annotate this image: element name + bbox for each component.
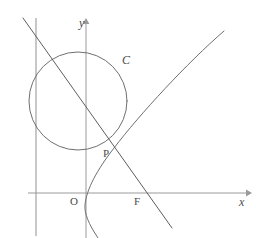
x-axis-label: x [239,196,244,208]
circle-label-c: C [122,54,130,66]
figure-canvas [0,0,256,238]
y-axis-label: y [79,17,84,29]
point-label-p: P [103,148,109,159]
x-axis-arrow-icon [246,190,252,197]
focus-label-f: F [134,196,140,207]
origin-label-o: O [70,196,78,207]
tangent-line [23,18,172,228]
circle-c [29,52,127,150]
geometry-figure: y x C P O F [0,0,256,238]
